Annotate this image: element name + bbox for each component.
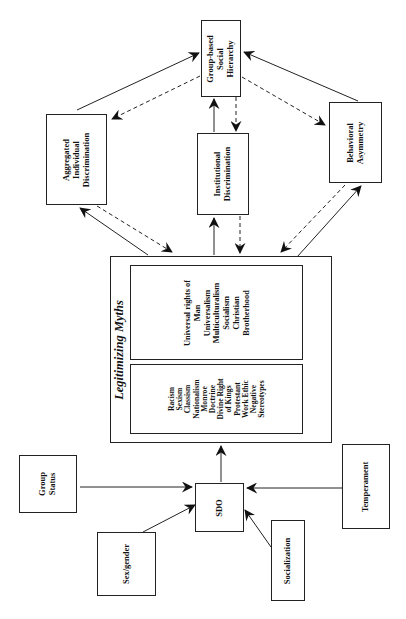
myth-item: of Kings [225,378,233,419]
edge-hierarchy-to-behavioral [242,77,325,125]
node-label-line: Socialization [283,537,293,583]
myth-item: Man [192,280,202,346]
myth-item: Multiculturalism [212,280,222,346]
myth-item: Protestant [233,378,241,419]
node-label-line: Individual [72,132,82,186]
node-group-based-social-hierarchy: Group-based Social Hierarchy [201,20,241,97]
myth-item: Universalism [202,280,212,346]
edge-socialization-to-sdo [245,510,271,547]
node-label-line: Temperament [361,461,371,512]
node-label-line: Behavioral [346,121,356,163]
node-sdo: SDO [195,483,244,532]
node-label-line: Discrimination [81,132,91,186]
edge-myths-to-aggregated [80,208,148,255]
node-label-line: Status [48,472,58,496]
edge-aggregated-to-hierarchy [77,53,199,110]
node-label-line: Discrimination [223,147,233,201]
edge-myths-to-behavioral [297,186,361,257]
myth-item: Stereotypes [257,378,265,419]
node-temperament: Temperament [342,444,390,529]
myth-item: Socialism [221,280,231,346]
node-institutional-discrimination: Institutional Discrimination [197,133,249,215]
node-label-line: Sex/gender [122,544,132,584]
myth-item: Christian [231,280,241,346]
edge-sexgender-to-sdo [143,505,195,532]
node-behavioral-asymmetry: Behavioral Asymmetry [329,102,382,183]
myth-item: Universal rights of [182,280,192,346]
node-sex-gender: Sex/gender [97,532,156,596]
edge-behavioral-to-hierarchy [244,52,358,101]
node-label-line: SDO [215,499,225,516]
edge-behavioral-to-myths [281,185,345,252]
node-socialization: Socialization [271,520,305,601]
edge-hierarchy-to-aggregated [112,76,200,119]
node-label-line: Asymmetry [356,121,366,163]
myth-item: Classism [184,378,192,419]
myth-item: Brotherhood [241,280,251,346]
node-aggregated-individual-discrimination: Aggregated Individual Discrimination [46,114,107,205]
node-group-status: Group Status [19,455,77,513]
enhancing-myths-box: Racism Sexism Classism Nationalism Monro… [130,364,303,434]
node-label-line: Aggregated [62,132,72,186]
legitimizing-myths-title: Legitimizing Myths [112,300,127,400]
node-label-line: Hierarchy [226,35,236,83]
diagram-canvas: Group-based Social Hierarchy Aggregated … [0,0,406,619]
attenuating-myths-box: Universal rights of Man Universalism Mul… [130,265,303,360]
